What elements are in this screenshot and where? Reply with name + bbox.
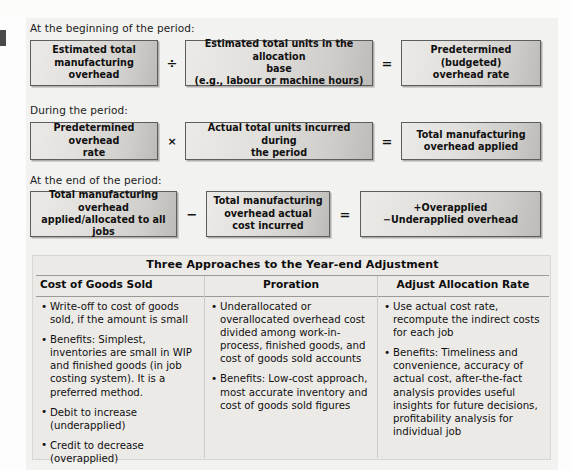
box-line: Estimated total units in the allocation — [191, 38, 367, 63]
year-end-adjustment-table: Three Approaches to the Year-end Adjustm… — [32, 255, 551, 460]
equation-row-during: Predetermined overhead rate × Actual tot… — [26, 122, 558, 168]
box-estimated-total-units-allocation-base: Estimated total units in the allocation … — [185, 40, 373, 86]
box-line: Predetermined overhead — [36, 122, 152, 147]
operator-equals: = — [332, 191, 358, 237]
table-column-adjust-allocation-rate: Use actual cost rate, recompute the indi… — [384, 300, 546, 445]
box-predetermined-overhead-rate-result: Predetermined (budgeted) overhead rate — [401, 40, 541, 86]
list-item: Underallocated or overallocated overhead… — [211, 300, 373, 365]
table-column-divider-2 — [377, 276, 378, 458]
section-label-beginning: At the beginning of the period: — [30, 22, 195, 34]
list-item: Debit to increase (underapplied) — [41, 406, 201, 432]
list-item: Benefits: Timeliness and convenience, ac… — [384, 346, 546, 438]
box-line: overhead actual — [213, 208, 322, 220]
table-header-cost-of-goods-sold: Cost of Goods Sold — [37, 278, 207, 290]
operator-divide: ÷ — [160, 40, 184, 86]
operator-equals: = — [375, 40, 399, 86]
box-line: base — [191, 63, 367, 75]
box-over-under-applied-overhead: +Overapplied −Underapplied overhead — [360, 191, 541, 237]
table-rule-under-title — [36, 275, 549, 276]
box-line: +Overapplied — [383, 202, 518, 214]
box-line: overhead rate — [431, 69, 512, 81]
table-rule-under-headers — [36, 296, 549, 297]
box-line: Actual total units incurred during — [191, 122, 367, 147]
box-line: Estimated total — [36, 44, 152, 56]
box-line: Total manufacturing — [213, 195, 322, 207]
list-item: Benefits: Simplest, inventories are smal… — [41, 333, 201, 398]
box-line: rate — [36, 147, 152, 159]
box-overhead-actual-cost-incurred: Total manufacturing overhead actual cost… — [206, 191, 330, 237]
box-line: cost incurred — [213, 220, 322, 232]
equation-row-beginning: Estimated total manufacturing overhead ÷… — [26, 40, 558, 94]
operator-equals: = — [375, 122, 399, 160]
table-column-divider-1 — [204, 276, 205, 458]
table-title: Three Approaches to the Year-end Adjustm… — [33, 258, 552, 271]
box-total-manufacturing-overhead-applied: Total manufacturing overhead applied — [401, 122, 541, 160]
page-margin-right — [558, 0, 572, 470]
box-actual-total-units-incurred: Actual total units incurred during the p… — [185, 122, 373, 160]
page-edge-artifact — [0, 30, 6, 46]
box-line: −Underapplied overhead — [383, 214, 518, 226]
box-line: (budgeted) — [431, 57, 512, 69]
box-line: manufacturing overhead — [36, 57, 152, 82]
table-column-proration: Underallocated or overallocated overhead… — [211, 300, 373, 419]
operator-minus: − — [179, 191, 205, 237]
box-line: applied/allocated to all — [36, 214, 171, 226]
list-item: Write-off to cost of goods sold, if the … — [41, 300, 201, 326]
section-label-end: At the end of the period: — [30, 174, 162, 186]
box-line: Predetermined — [431, 44, 512, 56]
box-predetermined-overhead-rate: Predetermined overhead rate — [30, 122, 158, 160]
operator-multiply: × — [160, 122, 184, 160]
list-item: Benefits: Low-cost approach, most accura… — [211, 372, 373, 411]
box-line: Total manufacturing — [416, 129, 525, 141]
box-line: (e.g., labour or machine hours) — [191, 75, 367, 87]
list-item: Use actual cost rate, recompute the indi… — [384, 300, 546, 339]
section-label-during: During the period: — [30, 104, 128, 116]
page-margin-top — [0, 0, 572, 18]
box-line: jobs — [36, 226, 171, 238]
table-column-cost-of-goods-sold: Write-off to cost of goods sold, if the … — [41, 300, 201, 470]
figure-page: At the beginning of the period: Estimate… — [0, 0, 572, 470]
list-item: Credit to decrease (overapplied) — [41, 439, 201, 465]
box-overhead-applied-allocated-to-jobs: Total manufacturing overhead applied/all… — [30, 191, 177, 237]
box-line: overhead applied — [416, 141, 525, 153]
table-header-proration: Proration — [205, 278, 377, 290]
table-header-adjust-allocation-rate: Adjust Allocation Rate — [378, 278, 548, 290]
box-line: Total manufacturing overhead — [36, 189, 171, 214]
box-line: the period — [191, 147, 367, 159]
equation-row-end: Total manufacturing overhead applied/all… — [26, 191, 558, 243]
box-estimated-total-manufacturing-overhead: Estimated total manufacturing overhead — [30, 40, 158, 86]
overhead-flow-figure: At the beginning of the period: Estimate… — [26, 18, 558, 470]
page-margin-left — [0, 0, 26, 470]
